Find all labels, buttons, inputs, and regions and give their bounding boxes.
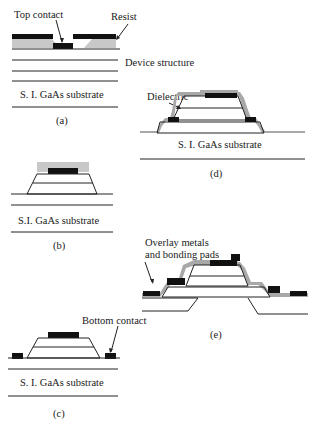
mesa-base xyxy=(162,287,270,297)
bonding-pad-left xyxy=(143,291,160,296)
caption-a: (a) xyxy=(56,115,68,127)
bottom-contact-right xyxy=(245,117,256,122)
caption-b: (b) xyxy=(53,240,66,252)
top-contact xyxy=(205,93,237,98)
process-diagram: Top contact Resist Device structure S. I… xyxy=(0,0,323,422)
panel-e: Overlay metals and bonding pads (e) xyxy=(142,237,308,341)
substrate-trench-right xyxy=(248,298,308,314)
panel-b: S.I. GaAs substrate (b) xyxy=(11,162,113,252)
resist-left xyxy=(12,39,60,48)
bottom-contact-left xyxy=(168,117,179,122)
label-device-structure: Device structure xyxy=(125,57,194,68)
label-overlay-line2: and bonding pads xyxy=(145,249,219,260)
top-contact xyxy=(48,168,78,174)
label-bottom-contact: Bottom contact xyxy=(82,315,147,326)
substrate-trench-left xyxy=(142,298,198,311)
panel-d: Dielectric S. I. GaAs substrate (d) xyxy=(140,90,305,180)
resist-right xyxy=(84,39,116,48)
panel-a: Top contact Resist Device structure S. I… xyxy=(12,9,194,127)
arrowhead-icon xyxy=(60,38,64,43)
label-substrate-d: S. I. GaAs substrate xyxy=(178,139,262,150)
bonding-pad-right xyxy=(290,291,307,296)
caption-d: (d) xyxy=(210,168,223,180)
label-top-contact: Top contact xyxy=(14,9,63,20)
metal-on-resist-right xyxy=(73,34,116,39)
mesa xyxy=(27,174,97,194)
label-resist: Resist xyxy=(111,11,137,22)
arrow-bottom-contact xyxy=(111,326,118,352)
label-substrate-a: S. I. GaAs substrate xyxy=(20,89,104,100)
caption-c: (c) xyxy=(53,408,65,420)
overlay-left-metal xyxy=(167,278,185,285)
label-substrate-c: S. I. GaAs substrate xyxy=(20,377,104,388)
label-overlay-line1: Overlay metals xyxy=(145,237,209,248)
mesa-base xyxy=(157,122,264,133)
overlay-right-metal xyxy=(268,286,280,293)
arrowhead-icon xyxy=(109,348,113,353)
caption-e: (e) xyxy=(210,329,222,341)
panel-c: Bottom contact S. I. GaAs substrate (c) xyxy=(8,315,147,420)
top-contact xyxy=(53,43,73,49)
label-substrate-b: S.I. GaAs substrate xyxy=(18,215,99,226)
metal-on-resist-left xyxy=(12,34,53,39)
mesa xyxy=(27,338,100,358)
arrowhead-icon xyxy=(150,279,154,284)
overlay-top-post xyxy=(231,254,240,261)
top-contact xyxy=(48,332,79,338)
